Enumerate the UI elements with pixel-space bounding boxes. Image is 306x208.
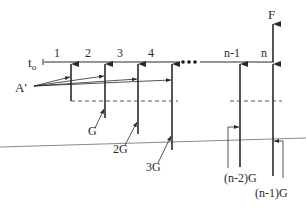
annuity-leaders bbox=[34, 76, 171, 86]
diagram-svg: to 1 2 3 4 n-1 n F A' G 2G 3G (n-2)G (n-… bbox=[0, 0, 306, 208]
gradient-label-n-2g: (n-2)G bbox=[224, 171, 257, 185]
period-label-n-1: n-1 bbox=[224, 46, 240, 60]
period-label-3: 3 bbox=[117, 46, 123, 60]
gradient-label-n-1g: (n-1)G bbox=[255, 186, 288, 200]
gradient-label-3g: 3G bbox=[146, 160, 161, 174]
period-label-n: n bbox=[261, 46, 267, 60]
gradient-label-2g: 2G bbox=[113, 142, 128, 156]
cash-flow-diagram: to 1 2 3 4 n-1 n F A' G 2G 3G (n-2)G (n-… bbox=[0, 0, 306, 208]
origin-label: to bbox=[28, 55, 37, 72]
period-label-2: 2 bbox=[85, 46, 91, 60]
period-label-4: 4 bbox=[148, 46, 154, 60]
annuity-label: A' bbox=[15, 80, 27, 95]
gradient-label-g: G bbox=[88, 124, 97, 138]
ground-line bbox=[0, 138, 306, 147]
ellipsis-dots bbox=[181, 60, 197, 64]
future-value-label: F bbox=[268, 7, 275, 22]
period-label-1: 1 bbox=[54, 46, 60, 60]
